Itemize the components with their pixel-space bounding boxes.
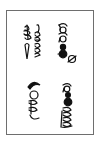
glyph-cluster-top-right xyxy=(55,21,81,69)
handwritten-glyph-icon xyxy=(55,21,81,69)
document-page: Scanned page with rotated handwritten sy… xyxy=(6,10,94,135)
handwritten-glyph-icon xyxy=(21,23,51,63)
glyph-cluster-top-left xyxy=(21,23,51,63)
glyph-cluster-bottom-right xyxy=(59,81,83,131)
handwritten-glyph-icon xyxy=(25,79,45,123)
handwritten-glyph-icon xyxy=(59,81,83,131)
glyph-cluster-bottom-left xyxy=(25,79,45,123)
